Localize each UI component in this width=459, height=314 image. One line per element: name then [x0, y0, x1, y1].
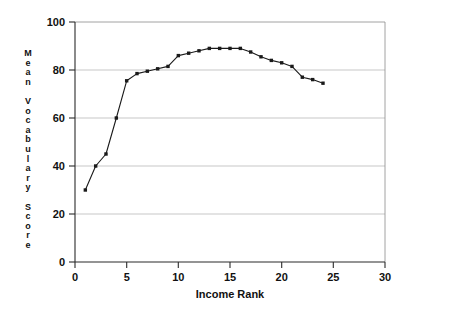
y-axis-title-letter: r: [26, 230, 30, 240]
data-point-marker: [197, 49, 200, 52]
data-point-marker: [146, 70, 149, 73]
y-axis-title: MeanVocabularyScore: [24, 48, 32, 250]
x-tick-label-25: 25: [327, 271, 339, 283]
data-point-marker: [115, 116, 118, 119]
y-axis-title-letter: a: [25, 67, 31, 77]
data-point-marker: [125, 79, 128, 82]
x-axis-title: Income Rank: [196, 288, 265, 300]
y-tick-label-100: 100: [47, 16, 65, 28]
y-axis-title-letter: o: [25, 221, 31, 231]
x-tick-label-0: 0: [72, 271, 78, 283]
y-axis-title-letter: M: [24, 48, 32, 58]
y-axis-ticks: [69, 22, 75, 262]
y-axis-title-letter: b: [25, 134, 31, 144]
data-point-marker: [259, 55, 262, 58]
data-point-marker: [177, 54, 180, 57]
plot-background: [75, 22, 385, 262]
y-axis-title-letter: e: [25, 240, 30, 250]
data-point-marker: [249, 50, 252, 53]
y-axis-tick-labels: 100 80 60 40 20 0: [47, 16, 65, 268]
y-axis-title-letter: o: [25, 106, 31, 116]
data-point-marker: [270, 59, 273, 62]
y-axis-title-letter: a: [25, 125, 31, 135]
x-axis-ticks: [75, 262, 385, 268]
data-point-marker: [156, 67, 159, 70]
data-point-marker: [321, 82, 324, 85]
y-axis-title-letter: l: [27, 154, 30, 164]
chart-figure: 100 80 60 40 20 0 0 5 10 15 20 25 30: [0, 0, 459, 314]
x-tick-label-30: 30: [379, 271, 391, 283]
data-point-marker: [166, 65, 169, 68]
x-tick-label-10: 10: [172, 271, 184, 283]
data-point-marker: [208, 47, 211, 50]
data-point-marker: [301, 76, 304, 79]
y-axis-title-letter: e: [25, 58, 30, 68]
data-point-marker: [187, 52, 190, 55]
y-axis-title-letter: r: [26, 173, 30, 183]
data-point-marker: [84, 188, 87, 191]
y-axis-title-letter: y: [25, 182, 30, 192]
y-tick-label-0: 0: [59, 256, 65, 268]
y-axis-title-letter: c: [25, 211, 30, 221]
y-axis-title-letter: n: [25, 77, 31, 87]
data-point-marker: [290, 65, 293, 68]
data-point-marker: [135, 72, 138, 75]
y-axis-title-letter: u: [25, 144, 31, 154]
x-axis-tick-labels: 0 5 10 15 20 25 30: [72, 271, 391, 283]
data-point-marker: [311, 78, 314, 81]
y-axis-title-letter: a: [25, 163, 31, 173]
data-point-marker: [218, 47, 221, 50]
y-axis-title-letter: V: [25, 96, 31, 106]
y-axis-title-letter: c: [25, 115, 30, 125]
vocabulary-score-line-chart: 100 80 60 40 20 0 0 5 10 15 20 25 30: [0, 0, 459, 314]
data-point-marker: [94, 164, 97, 167]
data-point-marker: [280, 61, 283, 64]
x-tick-label-15: 15: [224, 271, 236, 283]
y-tick-label-40: 40: [53, 160, 65, 172]
y-tick-label-20: 20: [53, 208, 65, 220]
y-axis-title-letter: S: [25, 202, 31, 212]
x-tick-label-20: 20: [276, 271, 288, 283]
data-point-marker: [239, 47, 242, 50]
y-tick-label-80: 80: [53, 64, 65, 76]
data-point-marker: [104, 152, 107, 155]
x-tick-label-5: 5: [124, 271, 130, 283]
y-tick-label-60: 60: [53, 112, 65, 124]
data-point-marker: [228, 47, 231, 50]
